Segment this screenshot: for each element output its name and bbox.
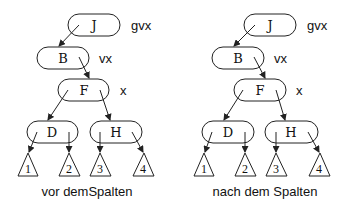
node-j: J [244,14,296,36]
subtree-3-label: 3 [273,162,279,176]
node-h: H [265,121,318,143]
node-b-label: B [233,51,243,66]
tree-before-split: J gvx B vx F x D H [18,14,154,199]
label-gvx: gvx [131,18,152,33]
caption-after: nach dem Spalten [213,184,318,199]
node-d-label: D [223,125,233,140]
subtree-1: 1 [194,153,214,176]
label-gvx: gvx [307,18,328,33]
label-x: x [120,83,127,98]
node-d: D [27,121,78,143]
node-f-label: F [255,83,264,98]
edge-f-d [224,90,243,120]
node-j-label: J [89,18,96,33]
node-b: B [37,47,89,69]
node-b-label: B [58,51,68,66]
subtree-4: 4 [309,153,330,176]
subtree-1-label: 1 [25,162,31,176]
label-x: x [296,83,303,98]
node-h-label: H [285,125,296,140]
subtree-3: 3 [90,153,111,176]
subtree-4: 4 [133,153,154,176]
node-d-label: D [47,125,57,140]
subtree-2: 2 [235,153,256,176]
label-vx: vx [274,51,288,66]
node-j: J [68,14,120,36]
node-f: F [58,79,109,101]
node-f-label: F [79,83,88,98]
node-h: H [90,121,142,143]
node-j-label: J [265,18,272,33]
tree-diagrams: J gvx B vx F x D H [0,0,344,210]
subtree-3-label: 3 [97,162,103,176]
subtree-3: 3 [266,153,287,176]
edge-f-d [48,90,68,120]
subtree-4-label: 4 [316,162,322,176]
node-b: B [212,47,264,69]
tree-after-split: J gvx B vx F x D H [194,14,330,199]
subtree-2: 2 [59,153,80,176]
label-vx: vx [99,51,113,66]
subtree-2-label: 2 [242,162,248,176]
subtree-2-label: 2 [66,162,72,176]
subtree-1: 1 [18,153,38,176]
caption-before: vor demSpalten [41,184,132,199]
subtree-1-label: 1 [201,162,207,176]
node-h-label: H [110,125,121,140]
subtree-4-label: 4 [140,162,146,176]
